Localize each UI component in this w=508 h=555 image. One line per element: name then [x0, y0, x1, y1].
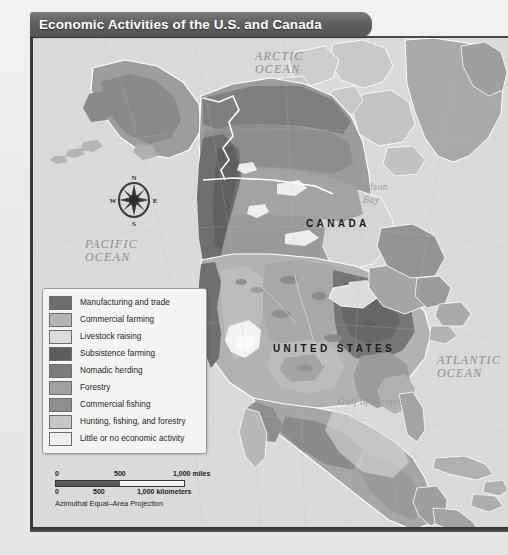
legend-item: Manufacturing and trade: [49, 294, 200, 311]
scalebar-miles-max: 1,000 miles: [173, 470, 210, 477]
map-title-banner: Economic Activities of the U.S. and Cana…: [30, 12, 372, 37]
legend-label: Commercial fishing: [80, 400, 151, 409]
legend-swatch: [49, 381, 72, 395]
compass-rose: N E S W: [108, 172, 160, 228]
legend-swatch: [49, 313, 72, 327]
legend-label: Hunting, fishing, and forestry: [80, 417, 186, 426]
legend-label: Livestock raising: [80, 332, 141, 341]
legend-item: Subsistence farming: [49, 345, 200, 362]
legend-swatch: [49, 364, 72, 378]
page-title: Economic Activities of the U.S. and Cana…: [30, 17, 322, 32]
legend-swatch: [49, 415, 72, 429]
scalebar-km-ticks: 0 500 1,000 kilometers: [55, 488, 235, 497]
legend-item: Little or no economic activity: [49, 430, 200, 447]
map-scalebar: 0 500 1,000 miles 0 500 1,000 kilometers…: [55, 470, 235, 508]
legend-item: Nomadic herding: [49, 362, 200, 379]
map-legend: Manufacturing and tradeCommercial farmin…: [42, 288, 207, 454]
map-frame-bottom-edge: [30, 527, 508, 532]
compass-west-label: W: [110, 197, 117, 205]
legend-item: Hunting, fishing, and forestry: [49, 413, 200, 430]
legend-swatch: [49, 432, 72, 446]
scalebar-miles-zero: 0: [55, 470, 59, 477]
scalebar-km-max: 1,000 kilometers: [137, 488, 191, 495]
scalebar-miles-ticks: 0 500 1,000 miles: [55, 470, 235, 479]
scalebar-miles-mid: 500: [114, 470, 126, 477]
legend-item: Forestry: [49, 379, 200, 396]
legend-label: Little or no economic activity: [80, 434, 184, 443]
legend-label: Nomadic herding: [80, 366, 143, 375]
legend-swatch: [49, 330, 72, 344]
legend-label: Subsistence farming: [80, 349, 155, 358]
scalebar-bar: [55, 480, 185, 487]
compass-east-label: E: [153, 197, 158, 205]
scalebar-km-mid: 500: [93, 488, 105, 495]
legend-label: Manufacturing and trade: [80, 298, 170, 307]
legend-item: Commercial fishing: [49, 396, 200, 413]
map-page: Economic Activities of the U.S. and Cana…: [0, 0, 508, 555]
legend-swatch: [49, 398, 72, 412]
map-canvas: ARCTIC OCEAN PACIFIC OCEAN ATLANTIC OCEA…: [30, 36, 508, 531]
legend-item: Livestock raising: [49, 328, 200, 345]
compass-north-label: N: [131, 174, 136, 182]
legend-label: Commercial farming: [80, 315, 154, 324]
legend-swatch: [49, 347, 72, 361]
scalebar-km-zero: 0: [55, 488, 59, 495]
legend-swatch: [49, 296, 72, 310]
legend-label: Forestry: [80, 383, 110, 392]
scalebar-segment-2: [120, 481, 184, 486]
scalebar-segment-1: [56, 481, 120, 486]
map-graphic: [33, 38, 508, 531]
compass-south-label: S: [132, 220, 136, 228]
map-projection-label: Azimuthal Equal–Area Projection: [55, 499, 235, 508]
legend-item: Commercial farming: [49, 311, 200, 328]
